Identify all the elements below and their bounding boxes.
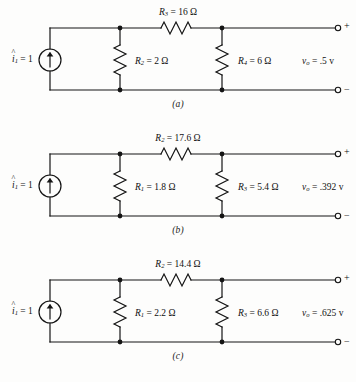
terminal-polarity-plus-c: +	[344, 272, 350, 283]
output-terminal-positive	[335, 151, 340, 156]
node-dot-top-right	[220, 26, 225, 31]
series-resistor-label-c: R2 = 14.4 Ω	[155, 260, 200, 270]
node-dot-bottom-left	[118, 88, 123, 93]
source-label-c: ^i1 = 1	[12, 307, 33, 317]
series-resistor-label-b: R2 = 17.6 Ω	[155, 134, 200, 144]
terminal-polarity-plus-b: +	[344, 146, 350, 157]
node-dot-top-left	[118, 26, 123, 31]
hat-accent-icon: ^	[11, 301, 15, 309]
node-dot-bottom-left	[118, 214, 123, 219]
node-dot-top-right	[220, 278, 225, 283]
shunt-left-resistor-label-a: R2 = 2 Ω	[135, 57, 168, 67]
output-voltage-label-a: vo = .5 v	[302, 57, 334, 67]
circuit-panel-a: ^i1 = 1 R3 = 16 Ω R2 = 2 Ω R4 = 6 Ω vo =…	[0, 0, 356, 126]
terminal-polarity-minus-a: −	[344, 84, 350, 95]
shunt-right-resistor-symbol	[216, 171, 228, 201]
node-dot-bottom-right	[220, 214, 225, 219]
node-dot-bottom-right	[220, 88, 225, 93]
series-resistor-symbol	[161, 274, 191, 286]
shunt-left-resistor-symbol	[114, 45, 126, 75]
output-terminal-negative	[335, 87, 340, 92]
figure-page: ^i1 = 1 R3 = 16 Ω R2 = 2 Ω R4 = 6 Ω vo =…	[0, 0, 356, 382]
hat-accent-icon: ^	[11, 175, 15, 183]
shunt-left-resistor-symbol	[114, 297, 126, 327]
shunt-right-resistor-label-c: R3 = 6.6 Ω	[238, 309, 279, 319]
figure-caption-a: (a)	[0, 99, 356, 109]
output-voltage-label-b: vo = .392 v	[302, 183, 343, 193]
current-source-arrow-head	[47, 304, 54, 309]
shunt-right-resistor-symbol	[216, 297, 228, 327]
terminal-polarity-minus-c: −	[344, 336, 350, 347]
output-terminal-negative	[335, 213, 340, 218]
hat-accent-icon: ^	[11, 49, 15, 57]
current-source-arrow-head	[47, 52, 54, 57]
series-resistor-label-a: R3 = 16 Ω	[159, 8, 197, 18]
circuit-panel-c: ^i1 = 1 R2 = 14.4 Ω R1 = 2.2 Ω R3 = 6.6 …	[0, 252, 356, 378]
figure-caption-b: (b)	[0, 225, 356, 235]
current-source-arrow-head	[47, 178, 54, 183]
terminal-polarity-minus-b: −	[344, 210, 350, 221]
source-label-a: ^i1 = 1	[12, 55, 33, 65]
node-dot-bottom-right	[220, 340, 225, 345]
node-dot-top-left	[118, 278, 123, 283]
series-resistor-symbol	[161, 22, 191, 34]
shunt-left-resistor-symbol	[114, 171, 126, 201]
node-dot-top-right	[220, 152, 225, 157]
shunt-right-resistor-symbol	[216, 45, 228, 75]
source-label-b: ^i1 = 1	[12, 181, 33, 191]
figure-caption-c: (c)	[0, 351, 356, 361]
output-voltage-label-c: vo = .625 v	[302, 309, 343, 319]
shunt-right-resistor-label-b: R3 = 5.4 Ω	[238, 183, 279, 193]
output-terminal-positive	[335, 277, 340, 282]
shunt-left-resistor-label-b: R1 = 1.8 Ω	[135, 183, 176, 193]
output-terminal-negative	[335, 339, 340, 344]
shunt-left-resistor-label-c: R1 = 2.2 Ω	[135, 309, 176, 319]
circuit-panel-b: ^i1 = 1 R2 = 17.6 Ω R1 = 1.8 Ω R3 = 5.4 …	[0, 126, 356, 252]
node-dot-top-left	[118, 152, 123, 157]
output-terminal-positive	[335, 25, 340, 30]
series-resistor-symbol	[161, 148, 191, 160]
shunt-right-resistor-label-a: R4 = 6 Ω	[238, 57, 271, 67]
terminal-polarity-plus-a: +	[344, 20, 350, 31]
node-dot-bottom-left	[118, 340, 123, 345]
